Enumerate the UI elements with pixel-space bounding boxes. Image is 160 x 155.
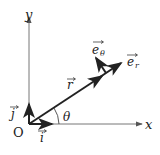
origin-label: O — [13, 125, 24, 140]
j-label: j — [8, 107, 15, 121]
e-r-subscript: r — [135, 61, 140, 70]
e-theta-subscript: θ — [100, 49, 105, 58]
e-r-label: e — [127, 55, 134, 69]
i-label: i — [40, 131, 44, 145]
e-theta-label: e — [92, 43, 99, 57]
angle-label: θ — [63, 110, 71, 124]
y-axis-label: y — [24, 7, 33, 22]
diagram-canvas: y x O θ j i r e θ e r — [0, 0, 160, 155]
x-axis-label: x — [145, 117, 153, 132]
r-label: r — [67, 78, 74, 92]
unit-vector-e-theta — [96, 58, 106, 73]
polar-coordinates-diagram: y x O θ j i r e θ e r — [0, 0, 160, 155]
angle-arc — [54, 108, 59, 124]
